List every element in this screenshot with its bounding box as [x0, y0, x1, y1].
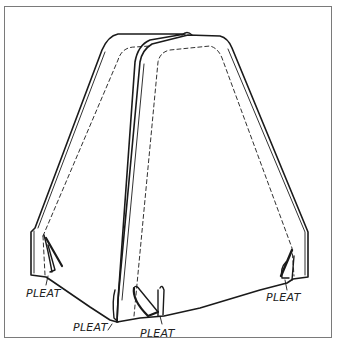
- leader-line: [108, 324, 112, 330]
- leader-line: [285, 280, 287, 290]
- cover-illustration: PLEAT PLEAT PLEAT PLEAT: [0, 0, 342, 347]
- right-panel-stitching: [134, 46, 294, 316]
- leader-line: [160, 316, 162, 324]
- pleat-label: PLEAT: [266, 291, 302, 304]
- pleat-label: PLEAT: [26, 287, 62, 300]
- left-panel-outline: [31, 34, 185, 322]
- right-panel-outline: [117, 35, 308, 322]
- pleat-label: PLEAT: [140, 327, 176, 340]
- left-pleat: [44, 235, 62, 272]
- pleat-label: PLEAT: [73, 321, 109, 334]
